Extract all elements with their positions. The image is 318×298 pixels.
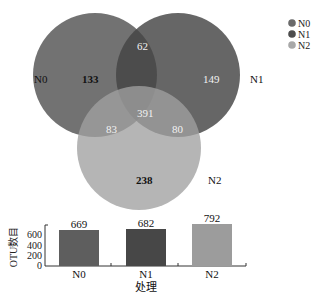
legend-label-n1: N1 [298,29,310,40]
venn-label-n0: N0 [34,73,48,85]
venn-label-n1: N1 [250,73,263,85]
legend-label-n0: N0 [298,18,310,29]
legend-swatch-n1 [288,30,296,38]
legend-label-n2: N2 [298,40,310,51]
bar-value-n0: 669 [71,218,88,230]
x-tick-n1: N1 [139,268,152,280]
x-axis-label: 处理 [135,281,157,293]
x-tick-n2: N2 [205,268,218,280]
legend-swatch-n0 [288,19,296,27]
venn-value-n1-n2: 80 [172,123,184,135]
venn-value-n0-n1: 62 [137,40,148,52]
venn-bar-figure: N0 N1 N2 133 149 238 62 83 80 391 N0 N1 … [0,0,318,298]
y-tick-200: 200 [27,250,42,261]
bar-value-n1: 682 [138,217,155,229]
venn-label-n2: N2 [208,174,221,186]
y-tick-600: 600 [27,229,42,240]
legend: N0 N1 N2 [288,18,310,51]
venn-diagram: N0 N1 N2 133 149 238 62 83 80 391 [33,13,263,210]
bar-value-n2: 792 [204,212,221,224]
venn-value-n0-only: 133 [82,73,99,85]
bar-n2 [192,224,232,266]
venn-circle-n2 [77,86,201,210]
venn-value-n0-n2: 83 [106,123,118,135]
x-tick-n0: N0 [72,268,86,280]
y-tick-0: 0 [37,260,42,271]
legend-swatch-n2 [288,41,296,49]
venn-value-n2-only: 238 [136,174,153,186]
y-axis-label: OTU数目 [7,227,19,268]
y-tick-400: 400 [27,240,42,251]
bar-n1 [126,229,166,266]
bar-n0 [59,230,99,266]
venn-value-n1-only: 149 [203,73,220,85]
venn-value-all: 391 [137,107,154,119]
bar-chart: 0 200 400 600 OTU数目 669 682 792 N0 N1 N2… [7,212,246,293]
